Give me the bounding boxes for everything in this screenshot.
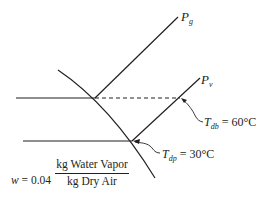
tdp-annotation: Tdp = 30°C	[162, 148, 214, 160]
units-numerator: kg Water Vapor	[55, 159, 129, 174]
pv-line	[132, 78, 200, 141]
tdb-leader-arrow	[183, 100, 203, 122]
humidity-ratio-equation: w = 0.04	[11, 175, 51, 187]
diagram-canvas: Pg Pv Tdb = 60°C Tdp = 30°C w = 0.04 kg …	[0, 0, 265, 198]
diagram-lines	[0, 0, 265, 198]
units-denominator: kg Dry Air	[55, 174, 129, 188]
pg-label: Pg	[181, 10, 193, 23]
pv-label: Pv	[201, 73, 213, 86]
tdb-annotation: Tdb = 60°C	[204, 116, 256, 128]
humidity-ratio-units: kg Water Vapor kg Dry Air	[55, 159, 129, 187]
pg-line	[95, 17, 178, 98]
